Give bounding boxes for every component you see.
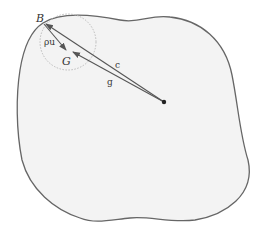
center-point [162, 100, 166, 104]
label-g: g [107, 77, 113, 87]
label-c: c [115, 60, 120, 70]
label-G: G [62, 55, 71, 68]
label-rho-u: ρu [44, 37, 55, 47]
diagram-canvas: B G ρu c g [0, 0, 264, 232]
label-B: B [35, 12, 44, 25]
